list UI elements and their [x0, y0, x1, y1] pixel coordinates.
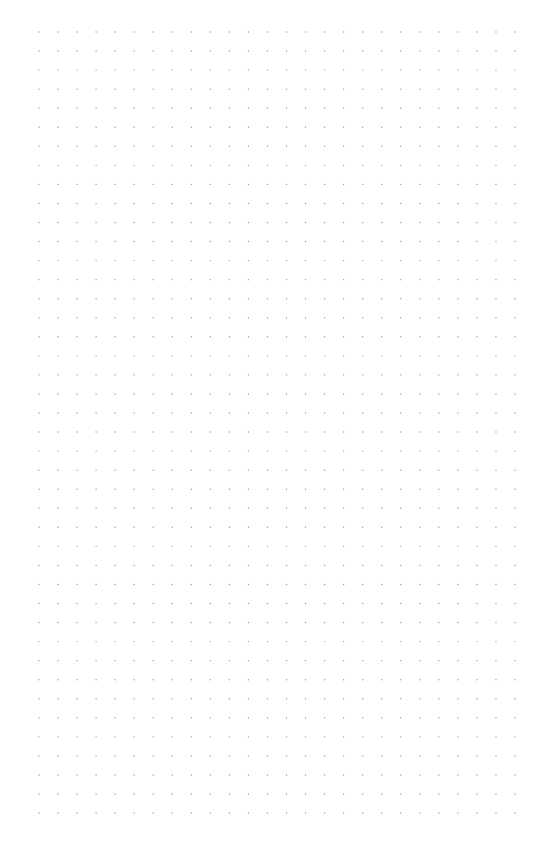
grid-dot — [514, 622, 515, 623]
grid-dot — [514, 298, 515, 299]
grid-dot — [362, 127, 363, 128]
grid-dot — [381, 508, 382, 509]
grid-dot — [286, 260, 287, 261]
grid-dot — [305, 260, 306, 261]
grid-dot — [95, 698, 96, 699]
grid-dot — [495, 546, 496, 547]
grid-dot — [76, 317, 77, 318]
grid-dot — [248, 412, 249, 413]
grid-dot — [38, 260, 39, 261]
grid-dot — [248, 793, 249, 794]
grid-dot — [248, 584, 249, 585]
grid-dot — [38, 717, 39, 718]
grid-dot — [191, 679, 192, 680]
grid-dot — [381, 546, 382, 547]
grid-dot — [134, 584, 135, 585]
grid-dot — [172, 774, 173, 775]
grid-dot — [419, 355, 420, 356]
grid-dot — [476, 546, 477, 547]
grid-dot — [419, 660, 420, 661]
grid-dot — [324, 165, 325, 166]
grid-dot — [134, 241, 135, 242]
grid-dot — [267, 469, 268, 470]
grid-dot — [191, 603, 192, 604]
grid-dot — [286, 50, 287, 51]
grid-dot — [495, 108, 496, 109]
grid-dot — [400, 165, 401, 166]
grid-dot — [134, 546, 135, 547]
grid-dot — [248, 393, 249, 394]
grid-dot — [400, 412, 401, 413]
grid-dot — [476, 279, 477, 280]
grid-dot — [114, 374, 115, 375]
grid-dot — [114, 717, 115, 718]
grid-dot — [343, 412, 344, 413]
grid-dot — [438, 622, 439, 623]
grid-dot — [248, 355, 249, 356]
grid-dot — [229, 298, 230, 299]
grid-dot — [419, 203, 420, 204]
grid-dot — [172, 584, 173, 585]
grid-dot — [362, 203, 363, 204]
grid-dot — [76, 641, 77, 642]
grid-dot — [191, 108, 192, 109]
grid-dot — [495, 755, 496, 756]
grid-dot — [400, 317, 401, 318]
grid-dot — [381, 527, 382, 528]
grid-dot — [286, 336, 287, 337]
grid-dot — [495, 793, 496, 794]
grid-dot — [57, 660, 58, 661]
grid-dot — [400, 527, 401, 528]
grid-dot — [286, 603, 287, 604]
grid-dot — [514, 241, 515, 242]
grid-dot — [95, 736, 96, 737]
grid-dot — [38, 393, 39, 394]
grid-dot — [381, 774, 382, 775]
grid-dot — [362, 374, 363, 375]
grid-dot — [229, 108, 230, 109]
grid-dot — [476, 127, 477, 128]
grid-dot — [457, 736, 458, 737]
grid-dot — [324, 298, 325, 299]
grid-dot — [400, 584, 401, 585]
grid-dot — [343, 431, 344, 432]
grid-dot — [229, 469, 230, 470]
grid-dot — [286, 279, 287, 280]
grid-dot — [400, 469, 401, 470]
grid-dot — [305, 50, 306, 51]
grid-dot — [305, 812, 306, 813]
grid-dot — [514, 755, 515, 756]
grid-dot — [362, 527, 363, 528]
grid-dot — [362, 717, 363, 718]
grid-dot — [248, 317, 249, 318]
grid-dot — [419, 527, 420, 528]
grid-dot — [362, 50, 363, 51]
grid-dot — [57, 698, 58, 699]
grid-dot — [76, 374, 77, 375]
grid-dot — [38, 374, 39, 375]
grid-dot — [514, 31, 515, 32]
grid-dot — [438, 793, 439, 794]
grid-dot — [38, 812, 39, 813]
grid-dot — [134, 279, 135, 280]
grid-dot — [514, 260, 515, 261]
grid-dot — [438, 698, 439, 699]
grid-dot — [267, 717, 268, 718]
grid-dot — [400, 336, 401, 337]
grid-dot — [438, 603, 439, 604]
grid-dot — [210, 146, 211, 147]
grid-dot — [381, 184, 382, 185]
grid-dot — [229, 317, 230, 318]
dot-grid — [0, 0, 536, 845]
grid-dot — [248, 203, 249, 204]
grid-dot — [210, 165, 211, 166]
grid-dot — [267, 298, 268, 299]
grid-dot — [362, 431, 363, 432]
grid-dot — [114, 431, 115, 432]
grid-dot — [248, 450, 249, 451]
grid-dot — [38, 31, 39, 32]
grid-dot — [514, 717, 515, 718]
grid-dot — [476, 88, 477, 89]
grid-dot — [381, 374, 382, 375]
grid-dot — [172, 127, 173, 128]
